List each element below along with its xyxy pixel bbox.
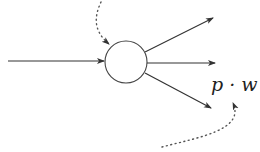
output-arrow-bottom xyxy=(145,73,211,108)
output-arrow-top xyxy=(145,18,213,52)
output-label: p · w xyxy=(211,73,258,95)
top-dotted-pointer xyxy=(96,2,109,44)
bottom-dotted-pointer xyxy=(162,103,235,147)
neuron-node xyxy=(105,41,147,83)
